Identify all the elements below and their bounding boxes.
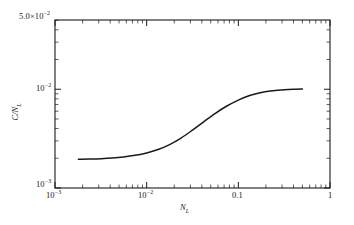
corner-base: 10 xyxy=(35,11,44,21)
corner-exponent: −2 xyxy=(44,10,51,16)
x-tick-base-2: 10 xyxy=(138,190,147,200)
y-axis-title-slash: / xyxy=(10,112,20,114)
y-axis-title-denominator: N xyxy=(10,107,20,113)
x-tick-label-0-1: 0.1 xyxy=(232,191,243,200)
y-tick-base-2: 10 xyxy=(36,179,45,189)
x-axis-title: NL xyxy=(180,203,189,212)
y-axis-title-subscript: L xyxy=(16,103,22,106)
x-tick-exponent-2: −2 xyxy=(147,189,154,195)
y-axis-title-numerator: C xyxy=(10,115,20,121)
x-tick-label-1e-3: 10−3 xyxy=(46,191,61,200)
y-axis-title: C/NL xyxy=(10,103,20,120)
y-axis-top-scale-label: 5.0×10−2 xyxy=(19,12,50,21)
plot-frame xyxy=(55,20,330,188)
x-tick-base-4: 1 xyxy=(328,190,332,200)
y-axis-title-wrapper: C/NL xyxy=(8,92,22,132)
x-tick-label-1e-2: 10−2 xyxy=(138,191,153,200)
y-tick-exponent-1: −2 xyxy=(45,82,52,88)
corner-mantissa: 5.0 xyxy=(19,11,30,21)
x-tick-base-3: 0.1 xyxy=(232,190,243,200)
y-tick-exponent-2: −3 xyxy=(45,178,52,184)
x-tick-label-1: 1 xyxy=(328,191,332,200)
x-axis-title-subscript: L xyxy=(186,208,189,214)
x-tick-base-1: 10 xyxy=(46,190,55,200)
y-tick-base-1: 10 xyxy=(36,83,45,93)
chart-figure: 5.0×10−2 10−2 10−3 10−3 10−2 0.1 1 NL C/… xyxy=(0,0,354,225)
y-tick-label-1e-2: 10−2 xyxy=(36,84,51,93)
x-tick-exponent-1: −3 xyxy=(55,189,62,195)
y-tick-label-1e-3: 10−3 xyxy=(36,180,51,189)
